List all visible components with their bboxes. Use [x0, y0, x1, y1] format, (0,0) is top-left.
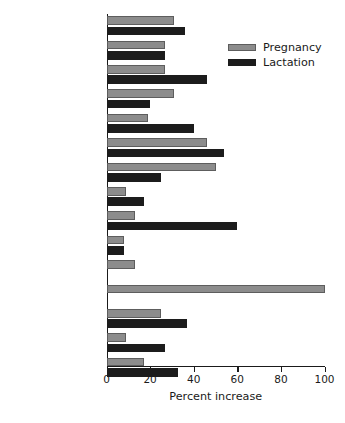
bar-group	[107, 136, 325, 160]
legend-swatch-pregnancy	[228, 44, 256, 51]
bar-pregnancy-pantothenic-acid	[107, 114, 148, 123]
bar-lactation-folate	[107, 173, 162, 182]
bar-pregnancy-thiamin	[107, 41, 166, 50]
legend-label-lactation: Lactation	[263, 57, 315, 68]
bar-lactation-vitamin-k	[107, 246, 124, 255]
bar-lactation-thiamin	[107, 51, 166, 60]
bar-group	[107, 282, 325, 306]
bar-group	[107, 209, 325, 233]
bar-pregnancy-vitamin-b12	[107, 187, 127, 196]
bar-lactation-vitamin-c	[107, 222, 238, 231]
bar-lactation-riboflavin	[107, 75, 207, 84]
bar-pregnancy-vitamin-k	[107, 236, 124, 245]
bar-group	[107, 258, 325, 282]
legend-item-lactation: Lactation	[228, 55, 322, 70]
bar-group	[107, 14, 325, 38]
bar-group	[107, 234, 325, 258]
bar-pregnancy-vitamin-c	[107, 211, 135, 220]
bar-group	[107, 185, 325, 209]
bar-group	[107, 356, 325, 380]
chart-legend: Pregnancy Lactation	[228, 40, 322, 70]
bar-lactation-iodine	[107, 368, 179, 377]
bar-lactation-selenium	[107, 344, 166, 353]
bar-group	[107, 331, 325, 355]
bar-pregnancy-protein	[107, 16, 175, 25]
bar-pregnancy-folate	[107, 163, 216, 172]
bar-pregnancy-riboflavin	[107, 65, 166, 74]
bar-pregnancy-vitamin-b6	[107, 138, 207, 147]
bar-group	[107, 160, 325, 184]
legend-item-pregnancy: Pregnancy	[228, 40, 322, 55]
bar-lactation-vitamin-b6	[107, 149, 225, 158]
bar-lactation-pantothenic-acid	[107, 124, 194, 133]
bar-group	[107, 307, 325, 331]
bar-pregnancy-iodine	[107, 358, 144, 367]
x-tick-100	[325, 367, 326, 372]
bar-lactation-protein	[107, 27, 185, 36]
bar-chart: 020406080100 ProteinThiaminRiboflavinNia…	[0, 0, 345, 423]
legend-swatch-lactation	[228, 59, 256, 66]
bar-lactation-vitamin-b12	[107, 197, 144, 206]
bar-pregnancy-selenium	[107, 333, 127, 342]
bar-pregnancy-iron	[107, 285, 325, 294]
legend-label-pregnancy: Pregnancy	[263, 42, 322, 53]
bar-lactation-niacin	[107, 100, 151, 109]
bar-group	[107, 112, 325, 136]
x-axis-label: Percent increase	[107, 390, 326, 403]
bar-pregnancy-zinc	[107, 309, 162, 318]
bar-pregnancy-niacin	[107, 89, 175, 98]
bar-lactation-zinc	[107, 319, 188, 328]
bar-pregnancy-magnesium	[107, 260, 135, 269]
bar-group	[107, 87, 325, 111]
